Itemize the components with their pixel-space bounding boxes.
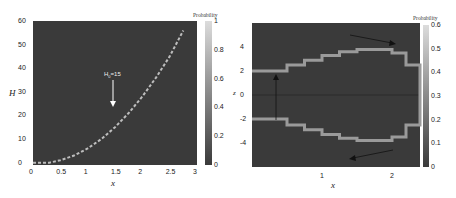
left-y-tick: 30 xyxy=(18,88,26,95)
right-colorbar-tick: 0 xyxy=(431,163,435,170)
left-x-tick: 2.5 xyxy=(166,168,176,175)
left-x-tick: 1.5 xyxy=(111,168,121,175)
left-y-tick: 0 xyxy=(18,159,22,166)
left-colorbar-tick: 0.4 xyxy=(214,103,224,110)
right-colorbar-tick: 0.4 xyxy=(431,68,441,75)
left-y-tick: 50 xyxy=(18,41,26,48)
left-x-tick: 2 xyxy=(138,168,142,175)
left-colorbar-tick: 0.8 xyxy=(214,46,224,53)
right-colorbar-tick: 0.5 xyxy=(431,45,441,52)
left-y-tick: 20 xyxy=(18,111,26,118)
right-y-label: z xyxy=(233,89,236,97)
right-y-tick: 4 xyxy=(240,43,244,50)
left-colorbar-tick: 0 xyxy=(214,161,218,168)
left-y-tick: 10 xyxy=(18,135,26,142)
left-x-label: x xyxy=(111,178,115,188)
right-colorbar-tick: 0.6 xyxy=(431,21,441,28)
right-colorbar xyxy=(423,25,429,167)
right-y-tick: -4 xyxy=(240,139,246,146)
left-colorbar xyxy=(205,21,212,165)
left-x-tick: 3 xyxy=(193,168,197,175)
right-chart: -4-2024 12 z x Probability 00.10.20.30.4… xyxy=(230,0,456,198)
right-y-tick: 2 xyxy=(240,67,244,74)
left-annotation: H0=15 xyxy=(104,71,121,79)
right-x-label: x xyxy=(331,180,335,190)
left-x-tick: 1 xyxy=(84,168,88,175)
right-y-tick: 0 xyxy=(240,91,244,98)
right-colorbar-tick: 0.1 xyxy=(431,139,441,146)
left-y-tick: 40 xyxy=(18,64,26,71)
right-y-tick: -2 xyxy=(240,115,246,122)
right-colorbar-tick: 0.3 xyxy=(431,92,441,99)
left-colorbar-tick: 0.2 xyxy=(214,132,224,139)
left-colorbar-tick: 1 xyxy=(214,17,218,24)
left-colorbar-tick: 0.6 xyxy=(214,75,224,82)
right-colorbar-tick: 0.2 xyxy=(431,116,441,123)
left-x-tick: 0.5 xyxy=(56,168,66,175)
left-chart: H0=15 0102030405060 00.511.522.53 H x Pr… xyxy=(0,0,230,198)
left-x-tick: 0 xyxy=(29,168,33,175)
left-y-tick: 60 xyxy=(18,17,26,24)
right-x-tick: 1 xyxy=(320,172,324,179)
left-y-label: H xyxy=(9,88,16,98)
right-x-tick: 2 xyxy=(390,172,394,179)
